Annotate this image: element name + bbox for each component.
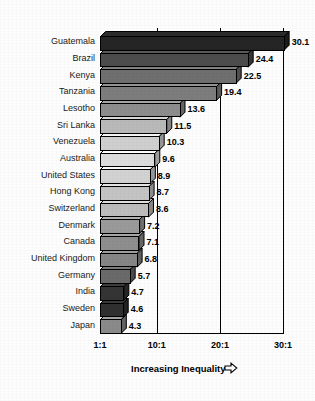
value-label: 24.4	[256, 55, 274, 64]
value-label: 19.4	[224, 88, 242, 97]
bar-front-face	[100, 136, 160, 151]
category-label: Japan	[0, 321, 95, 330]
bar-front-face	[100, 169, 151, 184]
category-label: Switzerland	[0, 204, 95, 213]
plot-area: Japan4.3Sweden4.6India4.7Germany5.7Unite…	[0, 0, 315, 401]
value-label: 4.3	[129, 322, 142, 331]
category-label: India	[0, 287, 95, 296]
value-label: 8.9	[158, 172, 171, 181]
value-label: 5.7	[138, 272, 151, 281]
value-label: 11.5	[174, 122, 191, 131]
category-label: Canada	[0, 237, 95, 246]
category-label: Australia	[0, 154, 95, 163]
category-label: United Kingdom	[0, 254, 95, 263]
bar-front-face	[100, 253, 138, 268]
category-label: Guatemala	[0, 37, 95, 46]
right-arrow-icon	[224, 362, 238, 374]
x-axis-title: Increasing Inequality	[131, 363, 226, 374]
x-tick-label: 30:1	[263, 341, 303, 350]
category-label: Tanzania	[0, 87, 95, 96]
bar-front-face	[100, 119, 167, 134]
bar-front-face	[100, 319, 122, 334]
value-label: 8.7	[157, 188, 170, 197]
category-label: Sri Lanka	[0, 121, 95, 130]
category-label: Sweden	[0, 304, 95, 313]
value-label: 30.1	[292, 38, 310, 47]
bar-front-face	[100, 203, 149, 218]
bar-front-face	[100, 36, 285, 51]
category-label: Denmark	[0, 221, 95, 230]
bar-front-face	[100, 103, 181, 118]
bar-front-face	[100, 303, 124, 318]
bar-front-face	[100, 219, 140, 234]
category-label: Germany	[0, 271, 95, 280]
value-label: 4.6	[131, 305, 144, 314]
bar-front-face	[100, 269, 131, 284]
bar-front-face	[100, 236, 139, 251]
x-tick-label: 1:1	[80, 341, 120, 350]
category-label: Kenya	[0, 71, 95, 80]
x-tick-label: 20:1	[200, 341, 240, 350]
value-label: 10.3	[167, 138, 185, 147]
x-tick-label: 10:1	[137, 341, 177, 350]
bar	[100, 31, 291, 52]
bar-front-face	[100, 69, 237, 84]
value-label: 7.2	[147, 222, 160, 231]
category-label: Venezuela	[0, 137, 95, 146]
bar-front-face	[100, 86, 217, 101]
value-label: 9.6	[162, 155, 175, 164]
gridline-30-1	[283, 28, 284, 333]
bar-front-face	[100, 153, 155, 168]
value-label: 22.5	[244, 72, 262, 81]
category-label: United States	[0, 171, 95, 180]
bar-front-face	[100, 286, 124, 301]
value-label: 6.8	[145, 255, 158, 264]
category-label: Lesotho	[0, 104, 95, 113]
category-label: Hong Kong	[0, 187, 95, 196]
value-label: 4.7	[131, 288, 144, 297]
value-label: 8.6	[156, 205, 169, 214]
inequality-bar-chart: Japan4.3Sweden4.6India4.7Germany5.7Unite…	[0, 0, 315, 401]
value-label: 13.6	[188, 105, 206, 114]
bar-front-face	[100, 186, 150, 201]
bar-front-face	[100, 53, 249, 68]
value-label: 7.1	[146, 238, 159, 247]
category-label: Brazil	[0, 54, 95, 63]
